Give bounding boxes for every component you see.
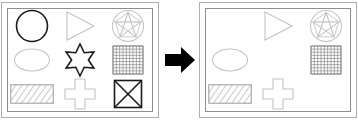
shape-cell-triangle-right <box>254 9 302 43</box>
shape-cell-ellipse <box>8 43 56 77</box>
shape-cell-triangle-right <box>56 9 104 43</box>
shape-cell-pentagram-circle <box>302 9 350 43</box>
shape-cell-hatched-rect <box>206 77 254 111</box>
output-panel-frame <box>205 8 351 112</box>
shape-cell-ellipse <box>206 43 254 77</box>
transform-arrow <box>163 44 197 76</box>
arrow-right-icon <box>165 47 195 73</box>
input-shape-grid <box>8 9 152 111</box>
shape-cell-cross <box>254 77 302 111</box>
shape-cell-star-six <box>56 43 104 77</box>
shape-cell-crossed-square <box>104 77 152 111</box>
shape-cell-circle <box>8 9 56 43</box>
shape-transformation-puzzle <box>0 0 358 120</box>
shape-cell-pentagram-circle <box>104 9 152 43</box>
output-shape-grid <box>206 9 350 111</box>
shape-cell-cross <box>56 77 104 111</box>
input-panel-frame <box>7 8 153 112</box>
output-panel <box>199 2 357 118</box>
shape-cell-grid-square <box>104 43 152 77</box>
shape-cell-grid-square <box>302 43 350 77</box>
input-panel <box>1 2 159 118</box>
shape-cell-hatched-rect <box>8 77 56 111</box>
